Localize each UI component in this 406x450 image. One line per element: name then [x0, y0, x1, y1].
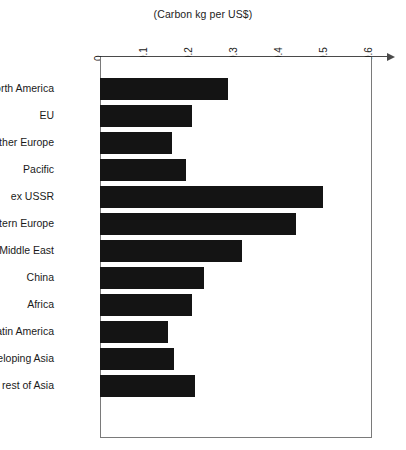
bar-row: developing Asia: [100, 348, 370, 370]
bar: [100, 348, 174, 370]
category-label: China: [0, 271, 54, 283]
bar-row: Middle East: [100, 240, 370, 262]
bar: [100, 267, 204, 289]
bar-row: rest of Asia: [100, 375, 370, 397]
bar-row: Latin America: [100, 321, 370, 343]
bar-row: Eastern Europe: [100, 213, 370, 235]
bar-row: ex USSR: [100, 186, 370, 208]
bar: [100, 105, 192, 127]
bar: [100, 294, 192, 316]
bar: [100, 240, 242, 262]
category-label: rest of Asia: [0, 379, 54, 391]
bar-row: Pacific: [100, 159, 370, 181]
scan-artifact: [10, 443, 240, 449]
category-label: Middle East: [0, 244, 54, 256]
category-label: North America: [0, 82, 54, 94]
category-label: ex USSR: [0, 190, 54, 202]
category-label: EU: [0, 109, 54, 121]
category-label: other Europe: [0, 136, 54, 148]
bar-row: other Europe: [100, 132, 370, 154]
bar-row: North America: [100, 78, 370, 100]
bar: [100, 186, 323, 208]
category-label: developing Asia: [0, 352, 54, 364]
category-label: Pacific: [0, 163, 54, 175]
x-axis-arrow-icon: [387, 53, 395, 61]
bar: [100, 78, 228, 100]
bar: [100, 132, 172, 154]
bar: [100, 213, 296, 235]
bar-row: EU: [100, 105, 370, 127]
category-label: Africa: [0, 298, 54, 310]
category-label: Eastern Europe: [0, 217, 54, 229]
bar: [100, 375, 195, 397]
bar: [100, 159, 186, 181]
category-label: Latin America: [0, 325, 54, 337]
bar: [100, 321, 168, 343]
bar-row: China: [100, 267, 370, 289]
bar-chart-figure: (Carbon kg per US$) 00.10.20.30.40.50.6 …: [0, 0, 406, 450]
bar-row: Africa: [100, 294, 370, 316]
